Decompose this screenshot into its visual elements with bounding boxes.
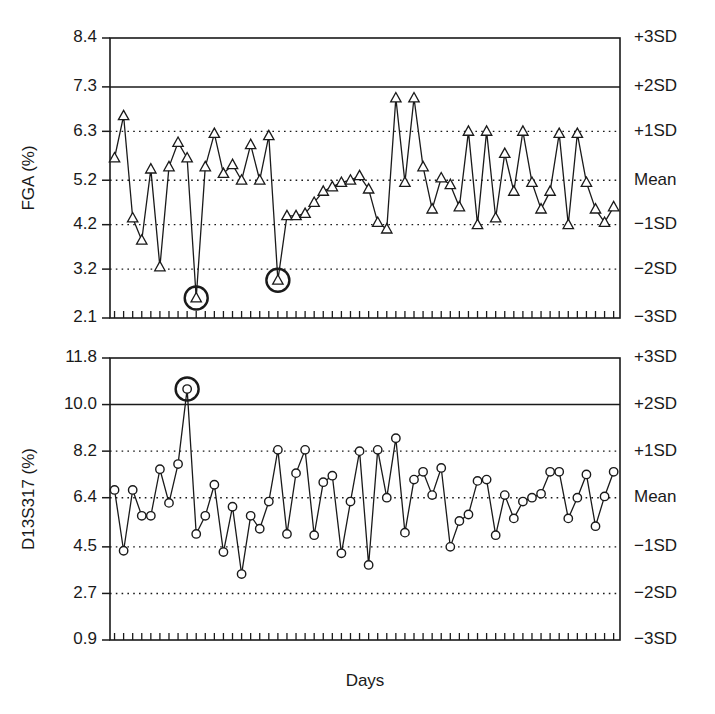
data-point-marker (401, 528, 409, 536)
sd-label-3: Mean (634, 487, 677, 506)
data-point-marker (545, 186, 555, 195)
y-tick-label: 0.9 (73, 629, 97, 648)
data-point-marker (463, 126, 473, 135)
data-point-marker (156, 465, 164, 473)
data-point-marker (374, 446, 382, 454)
data-point-marker (319, 478, 327, 486)
sd-label-2: +1SD (634, 121, 677, 140)
data-point-marker (210, 481, 218, 489)
data-point-marker (491, 531, 499, 539)
data-point-marker (118, 110, 128, 119)
data-point-marker (582, 470, 590, 478)
data-point-marker (363, 184, 373, 193)
y-tick-label: 2.7 (73, 583, 97, 602)
data-point-marker (608, 201, 618, 210)
data-point-marker (201, 512, 209, 520)
sd-label-6: −3SD (634, 629, 677, 648)
data-point-marker (509, 186, 519, 195)
data-point-marker (127, 213, 137, 222)
data-point-marker (564, 514, 572, 522)
y-tick-label: 4.2 (73, 214, 97, 233)
data-point-marker (236, 175, 246, 184)
data-point-marker (227, 159, 237, 168)
data-point-marker (536, 204, 546, 213)
fga-plot-svg: 8.47.36.35.24.23.22.1+3SD+2SD+1SDMean−1S… (0, 0, 715, 340)
data-point-marker (519, 497, 527, 505)
data-point-marker (501, 491, 509, 499)
data-point-marker (174, 460, 182, 468)
data-point-marker (128, 486, 136, 494)
data-point-marker (537, 490, 545, 498)
data-point-marker (147, 512, 155, 520)
data-point-marker (563, 219, 573, 228)
plot-frame (110, 38, 620, 318)
data-point-marker (518, 126, 528, 135)
data-point-marker (473, 477, 481, 485)
data-point-marker (590, 204, 600, 213)
data-point-marker (255, 175, 265, 184)
data-point-marker (428, 491, 436, 499)
y-tick-label: 3.2 (73, 259, 97, 278)
data-point-marker (410, 475, 418, 483)
data-point-marker (446, 543, 454, 551)
data-point-marker (599, 217, 609, 226)
data-point-marker (454, 201, 464, 210)
data-point-marker (183, 385, 191, 393)
data-point-marker (527, 177, 537, 186)
y-tick-label: 11.8 (65, 347, 97, 366)
sd-label-6: −3SD (634, 307, 677, 326)
data-point-marker (573, 494, 581, 502)
data-point-marker (355, 447, 363, 455)
data-point-marker (554, 128, 564, 137)
data-point-marker (472, 219, 482, 228)
data-point-marker (337, 549, 345, 557)
data-point-marker (274, 446, 282, 454)
data-point-marker (310, 531, 318, 539)
data-point-marker (146, 164, 156, 173)
series-line (115, 389, 614, 574)
data-point-marker (437, 464, 445, 472)
data-point-marker (173, 137, 183, 146)
data-point-marker (191, 293, 201, 302)
data-point-marker (192, 530, 200, 538)
data-point-marker (364, 561, 372, 569)
data-point-marker (581, 177, 591, 186)
data-point-marker (427, 204, 437, 213)
data-point-marker (373, 217, 383, 226)
data-point-marker (200, 161, 210, 170)
sd-label-5: −2SD (634, 259, 677, 278)
data-point-marker (246, 512, 254, 520)
data-point-marker (500, 148, 510, 157)
data-point-marker (591, 522, 599, 530)
data-point-marker (400, 177, 410, 186)
data-point-marker (391, 93, 401, 102)
data-point-marker (436, 173, 446, 182)
data-point-marker (354, 170, 364, 179)
chart-panel-fga: 8.47.36.35.24.23.22.1+3SD+2SD+1SDMean−1S… (0, 0, 715, 340)
data-point-marker (282, 210, 292, 219)
data-point-marker (119, 547, 127, 555)
sd-label-5: −2SD (634, 583, 677, 602)
data-point-marker (464, 510, 472, 518)
data-point-marker (165, 499, 173, 507)
control-chart-figure: 8.47.36.35.24.23.22.1+3SD+2SD+1SDMean−1S… (0, 0, 715, 714)
y-tick-label: 6.4 (73, 487, 97, 506)
data-point-marker (283, 530, 291, 538)
data-point-marker (346, 497, 354, 505)
y-tick-label: 5.2 (73, 170, 97, 189)
y-tick-label: 7.3 (73, 76, 97, 95)
data-point-marker (455, 517, 463, 525)
data-point-marker (419, 468, 427, 476)
data-point-marker (228, 503, 236, 511)
sd-label-0: +3SD (634, 347, 677, 366)
data-point-marker (481, 126, 491, 135)
x-axis-title: Days (346, 671, 385, 690)
sd-label-3: Mean (634, 170, 677, 189)
data-point-marker (155, 261, 165, 270)
data-point-marker (546, 468, 554, 476)
data-point-marker (301, 446, 309, 454)
data-point-marker (138, 512, 146, 520)
y-tick-label: 8.4 (73, 27, 97, 46)
data-point-marker (182, 153, 192, 162)
data-point-marker (418, 161, 428, 170)
